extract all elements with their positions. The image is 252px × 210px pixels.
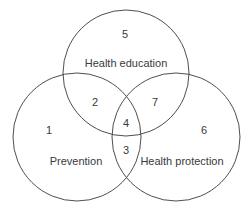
region-4-number: 4 [123,117,129,129]
region-1-number: 1 [46,124,52,136]
circle-prevention [13,73,141,201]
venn-diagram: 5 Health education 2 7 4 3 1 6 Preventio… [0,0,252,210]
region-7-number: 7 [152,96,158,108]
region-2-number: 2 [92,96,98,108]
region-5-number: 5 [122,28,128,40]
prevention-label: Prevention [50,155,103,167]
region-3-number: 3 [123,144,129,156]
region-6-number: 6 [201,124,207,136]
health-protection-label: Health protection [140,155,223,167]
health-education-label: Health education [85,57,168,69]
circle-health-protection [112,73,240,201]
